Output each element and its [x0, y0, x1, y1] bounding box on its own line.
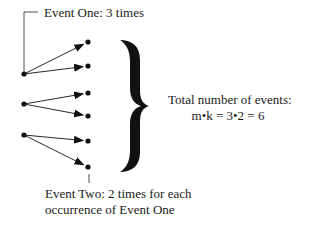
- event-two-label-line2: occurrence of Event One: [45, 202, 192, 218]
- event-two-node: [85, 90, 90, 95]
- event-two-label: Event Two: 2 times for each occurrence o…: [45, 186, 192, 218]
- total-formula: m•k = 3•2 = 6: [168, 108, 288, 124]
- event-one-leader-line: [24, 12, 38, 72]
- branch-arrow: [24, 94, 83, 104]
- curly-brace: [120, 40, 149, 172]
- total-events-label: Total number of events: m•k = 3•2 = 6: [168, 92, 288, 124]
- tree-branches: [24, 44, 84, 165]
- event-two-node: [85, 63, 90, 68]
- event-one-node: [21, 101, 26, 106]
- event-two-node: [85, 113, 90, 118]
- tree-nodes: [21, 39, 90, 169]
- branch-arrow: [24, 104, 83, 115]
- event-two-label-line1: Event Two: 2 times for each: [45, 186, 192, 202]
- event-one-label: Event One: 3 times: [44, 5, 144, 21]
- total-label-line1: Total number of events:: [168, 92, 288, 108]
- branch-arrow: [24, 67, 83, 74]
- event-two-node: [85, 39, 90, 44]
- event-one-node: [21, 132, 26, 137]
- event-one-node: [21, 71, 26, 76]
- event-two-node: [85, 164, 90, 169]
- branch-arrow: [24, 44, 84, 74]
- event-two-node: [85, 138, 90, 143]
